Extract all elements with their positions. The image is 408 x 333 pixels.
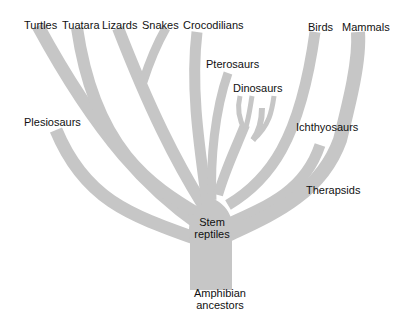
dinosaurs-sub-2 xyxy=(245,96,252,130)
stem-reptiles-line-2: reptiles xyxy=(190,228,234,240)
plesiosaurs-branch xyxy=(56,130,200,240)
label-turtles: Turtles xyxy=(24,19,57,31)
label-tuatara: Tuatara xyxy=(62,19,100,31)
label-lizards: Lizards xyxy=(102,19,137,31)
label-therapsids: Therapsids xyxy=(306,184,360,196)
dinosaurs-branch xyxy=(218,125,245,195)
label-mammals: Mammals xyxy=(342,21,390,33)
label-pterosaurs: Pterosaurs xyxy=(206,58,259,70)
label-dinosaurs: Dinosaurs xyxy=(233,82,283,94)
snakes-branch xyxy=(143,28,166,82)
label-plesiosaurs: Plesiosaurs xyxy=(24,116,81,128)
label-amphibian-ancestors: Amphibian ancestors xyxy=(190,287,250,311)
amphibian-ancestors-line-2: ancestors xyxy=(190,299,250,311)
amphibian-ancestors-line-1: Amphibian xyxy=(190,287,250,299)
phylogenetic-tree xyxy=(0,0,408,333)
label-snakes: Snakes xyxy=(142,19,179,31)
label-birds: Birds xyxy=(308,21,333,33)
label-crocodilians: Crocodilians xyxy=(183,19,244,31)
trunk-fill xyxy=(189,198,233,290)
label-ichthyosaurs: Ichthyosaurs xyxy=(296,121,358,133)
label-stem-reptiles: Stem reptiles xyxy=(190,216,234,240)
stem-reptiles-line-1: Stem xyxy=(190,216,234,228)
